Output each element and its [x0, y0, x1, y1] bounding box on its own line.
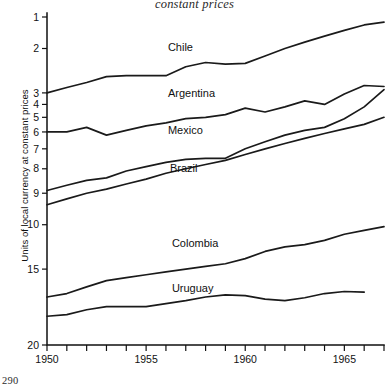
y-tick-label: 20 — [27, 339, 39, 351]
y-tick-label: 5 — [33, 111, 39, 123]
series-label-mexico: Mexico — [168, 124, 203, 136]
y-tick-label: 6 — [33, 126, 39, 138]
y-tick-label: 1 — [33, 11, 39, 23]
y-tick-label: 9 — [33, 187, 39, 199]
series-line-chile — [47, 22, 384, 93]
x-tick-label: 1950 — [35, 353, 59, 365]
series-label-colombia: Colombia — [172, 237, 219, 249]
line-chart: 2015109876543211950195519601965ChileArge… — [0, 0, 389, 387]
x-tick-label: 1960 — [234, 353, 258, 365]
page-number: 290 — [2, 375, 19, 386]
y-tick-label: 8 — [33, 162, 39, 174]
figure: constant prices Units of local currency … — [0, 0, 389, 387]
series-label-chile: Chile — [168, 41, 193, 53]
series-label-brazil: Brazil — [170, 162, 198, 174]
series-label-argentina: Argentina — [168, 87, 216, 99]
y-tick-label: 7 — [33, 143, 39, 155]
y-axis-title: Units of local currency at constant pric… — [19, 56, 30, 296]
series-label-uruguay: Uruguay — [172, 282, 214, 294]
series-line-brazil — [47, 117, 384, 204]
y-tick-label: 3 — [33, 87, 39, 99]
y-tick-label: 2 — [33, 42, 39, 54]
y-tick-label: 4 — [33, 98, 39, 110]
series-line-argentina — [47, 85, 384, 135]
series-line-mexico — [47, 90, 384, 191]
x-tick-label: 1965 — [333, 353, 357, 365]
x-tick-label: 1955 — [134, 353, 158, 365]
figure-caption: constant prices — [0, 0, 389, 12]
series-line-uruguay — [47, 292, 364, 317]
